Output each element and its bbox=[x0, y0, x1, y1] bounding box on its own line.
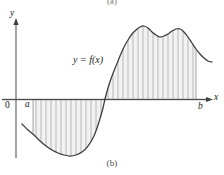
x-axis-arrowhead bbox=[206, 97, 213, 102]
y-axis-arrowhead bbox=[13, 18, 18, 25]
shaded-area-group bbox=[33, 26, 196, 156]
figure-panel-b: (a) bbox=[0, 0, 224, 175]
lower-limit-label: a bbox=[25, 99, 30, 109]
x-axis-label: x bbox=[214, 92, 218, 102]
y-axis-label: y bbox=[10, 8, 14, 18]
upper-limit-label: b bbox=[198, 101, 203, 111]
origin-label: 0 bbox=[5, 100, 10, 110]
panel-caption-b: (b) bbox=[0, 158, 224, 168]
positive-area-fill bbox=[105, 26, 196, 100]
negative-area-fill bbox=[33, 99, 105, 156]
curve-equation-label: y = f(x) bbox=[73, 54, 103, 65]
signed-area-plot bbox=[0, 0, 224, 175]
